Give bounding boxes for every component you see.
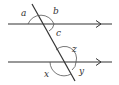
label-b: b [53, 6, 59, 16]
angle-arc-y [72, 62, 76, 70]
label-y: y [78, 66, 85, 76]
label-a: a [21, 8, 26, 18]
diagram-canvas: a b c z x y [0, 0, 119, 85]
parallel-line-bottom [8, 59, 112, 66]
label-c: c [56, 28, 61, 38]
parallel-line-top [8, 21, 112, 28]
angle-arc-c [49, 24, 54, 31]
label-x: x [44, 69, 49, 79]
label-z: z [71, 44, 77, 54]
